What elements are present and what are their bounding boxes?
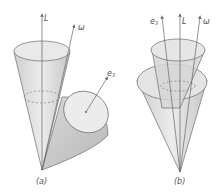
caption-b: (b) bbox=[174, 177, 185, 186]
panel-b: e3 L ω (b) bbox=[137, 15, 210, 186]
panel-a: L ω e3 (a) bbox=[14, 14, 116, 186]
label-omega-b: ω bbox=[203, 17, 210, 26]
label-omega-a: ω bbox=[78, 23, 85, 32]
cone-diagram: L ω e3 (a) e3 L ω (b) bbox=[0, 0, 222, 193]
label-e3-b: e3 bbox=[150, 17, 158, 26]
center-dot-a bbox=[85, 111, 87, 113]
label-e3-a: e3 bbox=[107, 69, 115, 78]
caption-a: (a) bbox=[36, 177, 47, 186]
label-L-a: L bbox=[44, 14, 48, 23]
label-L-b: L bbox=[182, 17, 186, 26]
